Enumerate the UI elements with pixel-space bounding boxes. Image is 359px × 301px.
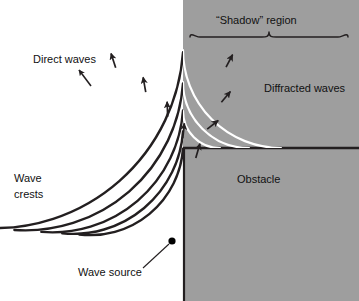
direct-wave-crest (14, 83, 183, 230)
direct-waves-leader (79, 70, 91, 86)
direct-wave-crests (0, 52, 183, 235)
label-wave-source: Wave source (78, 266, 142, 279)
label-wave-crests-line1: Wave (14, 172, 42, 185)
label-direct-waves: Direct waves (33, 53, 96, 66)
label-wave-crests-line2: crests (14, 188, 43, 201)
diffraction-diagram: Direct waves Wave crests Wave source “Sh… (0, 0, 359, 301)
label-obstacle: Obstacle (237, 173, 280, 186)
wave-source-dot (168, 237, 175, 244)
direct-wave-arrow (111, 53, 116, 67)
direct-wave-arrow (167, 102, 168, 117)
label-diffracted-waves: Diffracted waves (264, 82, 345, 95)
wave-source-leader (143, 244, 169, 268)
direct-wave-arrow (143, 77, 146, 92)
diagram-canvas (0, 0, 359, 301)
label-shadow-region: “Shadow” region (216, 14, 297, 27)
obstacle-region (183, 148, 359, 301)
direct-wave-crest (0, 52, 183, 228)
